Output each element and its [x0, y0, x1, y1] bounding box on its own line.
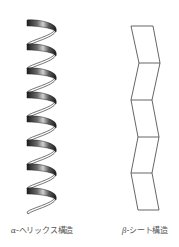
beta-sheet-label: β-シート構造 — [122, 224, 168, 235]
secondary-structure-figure: α-ヘリックス構造 β-シート構造 — [0, 0, 179, 247]
beta-sheet-illustration — [0, 0, 179, 222]
alpha-helix-label-text: -ヘリックス構造 — [16, 226, 73, 235]
alpha-helix-label: α-ヘリックス構造 — [11, 224, 74, 235]
beta-sheet-right-edge — [152, 26, 160, 210]
beta-sheet-label-text: -シート構造 — [126, 226, 168, 235]
beta-sheet-left-edge — [131, 26, 139, 210]
